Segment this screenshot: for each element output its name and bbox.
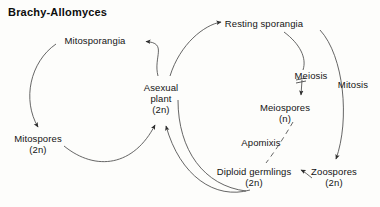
node-zoospores-ploidy: (2n) bbox=[311, 177, 357, 188]
process-mitosis: Mitosis bbox=[338, 79, 368, 90]
arrow-mitosporangia-to-mitospores bbox=[30, 44, 56, 127]
process-meiosis: Meiosis bbox=[295, 70, 328, 81]
arrow-asexualplant-to-restingsporangia bbox=[170, 22, 221, 76]
node-mitospores: Mitospores (2n) bbox=[14, 133, 61, 155]
process-meiosis-label: Meiosis bbox=[295, 70, 328, 81]
node-mitospores-label: Mitospores bbox=[14, 133, 61, 144]
page-title: Brachy-Allomyces bbox=[8, 6, 107, 18]
node-resting-sporangia-label: Resting sporangia bbox=[225, 18, 303, 29]
node-mitospores-ploidy: (2n) bbox=[14, 144, 61, 155]
node-diploid-germlings: Diploid germlings (2n) bbox=[217, 166, 292, 188]
life-cycle-diagram: Brachy-Allomyces Mitosporangia Mitospore… bbox=[0, 0, 380, 207]
node-resting-sporangia: Resting sporangia bbox=[225, 18, 303, 29]
node-asexual-plant: Asexual plant (2n) bbox=[144, 82, 179, 115]
meiosis-crossbar-icon-2 bbox=[296, 81, 306, 83]
node-diploid-germlings-ploidy: (2n) bbox=[217, 177, 292, 188]
node-asexual-plant-label2: plant bbox=[144, 93, 179, 104]
process-apomixis-label: Apomixis bbox=[241, 137, 280, 148]
arrow-to-mitosporangia bbox=[146, 42, 158, 77]
node-zoospores: Zoospores (2n) bbox=[311, 166, 357, 188]
process-mitosis-label: Mitosis bbox=[338, 79, 368, 90]
node-meiospores-ploidy: (n) bbox=[260, 113, 310, 124]
node-diploid-germlings-label: Diploid germlings bbox=[217, 166, 292, 177]
node-mitosporangia-label: Mitosporangia bbox=[65, 35, 126, 46]
process-apomixis: Apomixis bbox=[241, 137, 280, 148]
arrow-mitospores-to-asexualplant bbox=[64, 125, 155, 162]
node-asexual-plant-ploidy: (2n) bbox=[144, 104, 179, 115]
node-mitosporangia: Mitosporangia bbox=[65, 35, 126, 46]
node-meiospores-label: Meiospores bbox=[260, 102, 310, 113]
arrow-restingsporangia-to-zoospores-mitosis bbox=[320, 30, 343, 159]
arrow-restingsporangia-to-meiosis bbox=[284, 32, 304, 70]
node-meiospores: Meiospores (n) bbox=[260, 102, 310, 124]
node-asexual-plant-label: Asexual bbox=[144, 82, 179, 93]
node-zoospores-label: Zoospores bbox=[311, 166, 357, 177]
